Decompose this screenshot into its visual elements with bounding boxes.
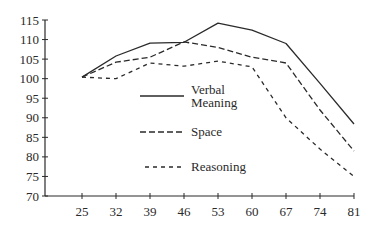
line-chart: 707580859095100105110115 253239465360677… [0,0,377,230]
y-tick-label: 90 [26,110,39,125]
x-axis: 253239465360677481 [45,193,361,219]
x-tick-label: 74 [314,204,328,219]
y-tick-label: 80 [26,149,39,164]
y-tick-label: 70 [26,189,39,204]
y-tick-label: 95 [26,91,39,106]
y-axis: 707580859095100105110115 [20,13,49,204]
x-tick-label: 32 [110,204,123,219]
legend: Verbal Meaning Space Reasoning [140,82,246,174]
x-tick-label: 67 [280,204,294,219]
x-tick-label: 53 [212,204,225,219]
legend-verbal-label-2: Meaning [191,95,238,110]
x-tick-label: 39 [144,204,157,219]
y-tick-label: 105 [20,52,40,67]
x-tick-label: 46 [178,204,192,219]
x-tick-label: 60 [246,204,259,219]
y-tick-label: 75 [26,169,39,184]
y-tick-label: 115 [20,13,39,28]
x-tick-label: 25 [76,204,89,219]
legend-reasoning-label: Reasoning [191,159,246,174]
y-tick-label: 85 [26,130,39,145]
x-tick-label: 81 [348,204,361,219]
y-tick-label: 110 [20,32,39,47]
y-tick-label: 100 [20,71,40,86]
legend-space-label: Space [191,124,222,139]
